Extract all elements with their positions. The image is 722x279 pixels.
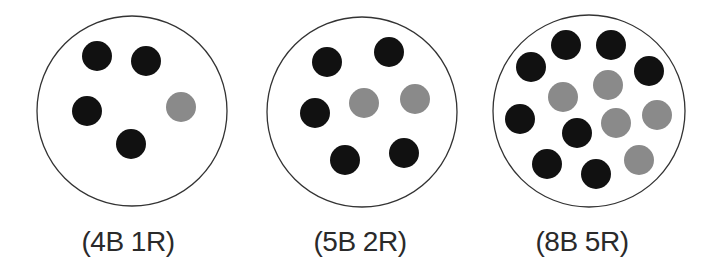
black-marble <box>389 138 419 168</box>
black-marble <box>374 37 404 67</box>
red-marble <box>349 88 379 118</box>
black-marble <box>300 98 330 128</box>
black-marble <box>516 52 546 82</box>
jar-2 <box>267 17 457 207</box>
red-marble <box>601 108 631 138</box>
black-marble <box>116 129 146 159</box>
black-marble <box>562 118 592 148</box>
black-marble <box>634 56 664 86</box>
black-marble <box>72 96 102 126</box>
jar-outline <box>37 16 227 206</box>
jar-2-label: (5B 2R) <box>290 226 430 258</box>
jar-1 <box>37 16 227 206</box>
black-marble <box>581 159 611 189</box>
marble-jars-diagram: (4B 1R) (5B 2R) (8B 5R) <box>0 0 722 279</box>
jar-3-label: (8B 5R) <box>512 226 652 258</box>
jars-drawing <box>0 0 722 214</box>
black-marble <box>330 145 360 175</box>
red-marble <box>642 100 672 130</box>
black-marble <box>312 47 342 77</box>
black-marble <box>596 30 626 60</box>
red-marble <box>624 145 654 175</box>
jar-1-label: (4B 1R) <box>58 226 198 258</box>
black-marble <box>82 41 112 71</box>
black-marble <box>505 104 535 134</box>
black-marble <box>551 30 581 60</box>
black-marble <box>532 149 562 179</box>
red-marble <box>400 84 430 114</box>
jar-3 <box>493 15 685 207</box>
black-marble <box>131 46 161 76</box>
red-marble <box>593 70 623 100</box>
red-marble <box>548 82 578 112</box>
red-marble <box>166 92 196 122</box>
